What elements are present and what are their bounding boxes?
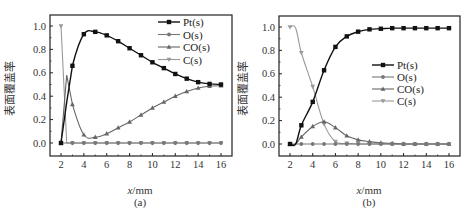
plot-frame bbox=[279, 16, 460, 156]
x-tick-label: 14 bbox=[193, 159, 204, 170]
series-cs bbox=[288, 25, 452, 146]
panel-label: (a) bbox=[134, 196, 147, 209]
legend-entry: Pt(s) bbox=[183, 16, 204, 29]
y-tick-label: 0.4 bbox=[262, 92, 276, 103]
x-tick-label: 2 bbox=[287, 159, 292, 170]
legend-entry: C(s) bbox=[397, 95, 416, 108]
legend-entry: C(s) bbox=[183, 54, 202, 67]
figure: 2468101214160.00.20.40.60.81.0Pt(s)O(s)C… bbox=[0, 0, 475, 212]
y-axis-label: 表面覆盖率 bbox=[3, 61, 17, 116]
y-tick-label: 0.6 bbox=[262, 68, 275, 79]
x-tick-label: 6 bbox=[104, 159, 109, 170]
y-tick-label: 1.0 bbox=[33, 21, 46, 32]
x-tick-label: 4 bbox=[310, 159, 316, 170]
x-tick-label: 6 bbox=[333, 159, 338, 170]
x-tick-label: 10 bbox=[376, 159, 387, 170]
y-tick-label: 0.8 bbox=[33, 44, 46, 55]
series-os bbox=[288, 142, 451, 146]
x-tick-label: 2 bbox=[58, 159, 63, 170]
legend: Pt(s)O(s)CO(s)C(s) bbox=[158, 16, 210, 67]
legend: Pt(s)O(s)CO(s)C(s) bbox=[372, 59, 424, 108]
x-axis-label: x/mm bbox=[126, 184, 153, 196]
y-tick-label: 1.0 bbox=[262, 22, 275, 33]
chart-panel-b: 2468101214160.00.20.40.60.81.0Pt(s)O(s)C… bbox=[236, 16, 460, 209]
y-tick-label: 0.2 bbox=[33, 114, 46, 125]
y-tick-label: 0.2 bbox=[262, 115, 275, 126]
panel-label: (b) bbox=[363, 196, 376, 209]
series-cos bbox=[59, 75, 224, 145]
y-tick-label: 0.6 bbox=[33, 67, 46, 78]
legend-entry: CO(s) bbox=[183, 41, 210, 54]
y-tick-label: 0.0 bbox=[262, 139, 275, 150]
x-tick-label: 12 bbox=[170, 159, 181, 170]
x-tick-label: 14 bbox=[421, 159, 432, 170]
y-tick-label: 0.0 bbox=[33, 138, 46, 149]
x-tick-label: 12 bbox=[398, 159, 409, 170]
x-tick-label: 16 bbox=[444, 159, 455, 170]
legend-entry: O(s) bbox=[183, 29, 203, 42]
y-tick-label: 0.4 bbox=[33, 91, 47, 102]
series-os bbox=[59, 141, 223, 145]
x-tick-label: 16 bbox=[216, 159, 227, 170]
y-tick-label: 0.8 bbox=[262, 45, 275, 56]
x-tick-label: 8 bbox=[127, 159, 132, 170]
plot-frame bbox=[50, 15, 232, 156]
x-tick-label: 4 bbox=[81, 159, 87, 170]
x-axis-label: x/mm bbox=[355, 184, 382, 196]
chart-panel-a: 2468101214160.00.20.40.60.81.0Pt(s)O(s)C… bbox=[3, 15, 232, 209]
x-tick-label: 8 bbox=[356, 159, 361, 170]
x-tick-label: 10 bbox=[147, 159, 158, 170]
series-cos bbox=[288, 119, 452, 146]
y-axis-label: 表面覆盖率 bbox=[236, 61, 250, 116]
